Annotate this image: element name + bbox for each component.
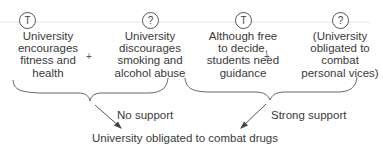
premise-fitness: University encourages fitness and health [3,30,93,79]
plus-operator: + [86,51,92,62]
right-brace [185,77,357,100]
premise-guidance: Although free to decide, students need g… [193,30,293,79]
left-brace [13,78,168,101]
premise-discourages-vices: University discourages smoking and alcoh… [98,30,202,79]
plus-operator: + [264,51,270,62]
question-badge-icon: ? [142,12,159,29]
question-badge-icon: ? [332,12,349,29]
conclusion: University obligated to combat drugs [92,132,278,144]
label-strong-support: Strong support [271,109,346,121]
premise-obligated-vices: (University obligated to combat personal… [288,30,383,79]
label-no-support: No support [117,109,173,121]
truth-badge-icon: T [19,12,36,29]
truth-badge-icon: T [235,12,252,29]
